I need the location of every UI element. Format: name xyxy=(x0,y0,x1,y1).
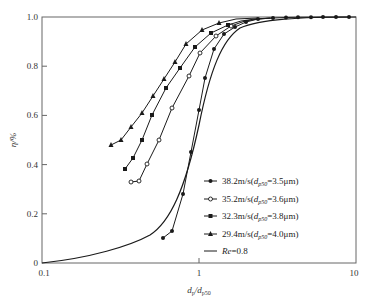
series-29-4 xyxy=(109,18,259,147)
legend-item-29-4: 29.4m/s(dp50=4.0μm) xyxy=(204,229,298,240)
legend-item-re: Re=0.8 xyxy=(204,246,248,256)
legend-item-32-3: 32.3m/s(dp50=3.8μm) xyxy=(204,211,298,222)
y-axis: 1.0 0.8 0.6 0.4 0.2 0 η/% xyxy=(8,12,47,268)
svg-text:29.4m/s(dp50=4.0μm): 29.4m/s(dp50=4.0μm) xyxy=(222,229,298,240)
x-tick-label: 0.1 xyxy=(38,268,49,278)
series-32-3 xyxy=(123,18,270,171)
y-tick-label: 1.0 xyxy=(27,12,39,22)
legend-item-35-2: 35.2m/s(dp50=3.6μm) xyxy=(204,194,298,205)
y-tick-label: 0 xyxy=(34,258,39,268)
y-axis-label: η/% xyxy=(8,133,18,147)
legend-item-38-2: 38.2m/s(dp50=3.5μm) xyxy=(204,176,298,187)
x-tick-label: 10 xyxy=(350,268,360,278)
series-38-2 xyxy=(161,15,351,240)
svg-text:38.2m/s(dp50=3.5μm): 38.2m/s(dp50=3.5μm) xyxy=(222,176,298,187)
x-axis: 0.1 1 10 dp/dp50 xyxy=(38,258,359,296)
y-tick-label: 0.4 xyxy=(27,160,39,170)
y-tick-label: 0.8 xyxy=(27,61,39,71)
svg-text:35.2m/s(dp50=3.6μm): 35.2m/s(dp50=3.6μm) xyxy=(222,194,298,205)
y-tick-label: 0.6 xyxy=(27,110,39,120)
filled-square-icon xyxy=(209,214,213,218)
y-tick-label: 0.2 xyxy=(27,209,38,219)
x-axis-label: dp/dp50 xyxy=(187,285,211,296)
legend: 38.2m/s(dp50=3.5μm) 35.2m/s(dp50=3.6μm) … xyxy=(204,176,298,256)
svg-text:Re=0.8: Re=0.8 xyxy=(221,246,248,256)
chart-root: { "chart_data": { "type": "line", "title… xyxy=(0,0,366,304)
x-tick-label: 1 xyxy=(197,268,202,278)
open-circle-icon xyxy=(209,197,213,201)
filled-circle-icon xyxy=(209,179,213,183)
chart-svg: 1.0 0.8 0.6 0.4 0.2 0 η/% 0.1 1 10 dp/dp… xyxy=(0,0,366,304)
svg-text:32.3m/s(dp50=3.8μm): 32.3m/s(dp50=3.8μm) xyxy=(222,211,298,222)
